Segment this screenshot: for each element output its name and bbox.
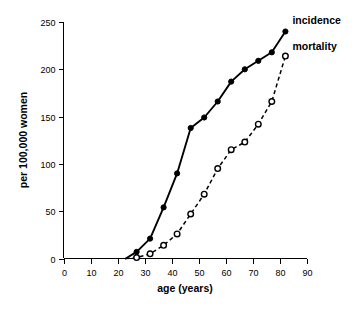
incidence-data-point: [161, 205, 166, 210]
incidence-data-point: [229, 79, 234, 84]
mortality-data-point: [134, 255, 140, 261]
x-axis-ticks: [65, 259, 308, 264]
y-tick-label: 200: [40, 65, 55, 75]
y-axis-tick-labels: 050100150200250: [40, 18, 55, 265]
incidence-line: [126, 32, 286, 259]
incidence-data-point: [242, 67, 247, 72]
x-tick-label: 40: [167, 268, 177, 278]
mortality-data-point: [242, 139, 248, 145]
incidence-data-point: [188, 125, 193, 130]
x-tick-label: 50: [194, 268, 204, 278]
mortality-data-point: [147, 251, 153, 257]
incidence-data-point: [175, 171, 180, 176]
incidence-data-point: [202, 115, 207, 120]
x-tick-label: 20: [113, 268, 123, 278]
y-tick-label: 250: [40, 18, 55, 28]
incidence-series-label: incidence: [292, 14, 341, 26]
x-tick-label: 90: [302, 268, 312, 278]
incidence-data-point: [283, 29, 288, 34]
x-tick-label: 10: [86, 268, 96, 278]
mortality-data-point: [283, 53, 289, 59]
line-chart: 050100150200250 0102030405060708090 inci…: [0, 0, 354, 310]
mortality-data-point: [255, 121, 261, 127]
mortality-data-point: [215, 166, 221, 172]
x-axis-tick-labels: 0102030405060708090: [62, 268, 313, 278]
mortality-data-point: [174, 231, 180, 237]
y-axis: 050100150200250: [40, 18, 63, 265]
mortality-markers: [134, 53, 288, 260]
incidence-data-point: [134, 249, 139, 254]
incidence-data-point: [148, 236, 153, 241]
x-tick-label: 60: [221, 268, 231, 278]
incidence-data-point: [215, 99, 220, 104]
y-axis-ticks: [59, 23, 64, 260]
series-mortality: [126, 53, 289, 260]
x-tick-label: 30: [140, 268, 150, 278]
y-tick-label: 150: [40, 113, 55, 123]
mortality-data-point: [228, 147, 234, 153]
x-axis: 0102030405060708090: [62, 259, 313, 278]
y-tick-label: 0: [50, 255, 55, 265]
mortality-data-point: [201, 191, 207, 197]
x-tick-label: 0: [62, 268, 67, 278]
mortality-data-point: [269, 99, 275, 105]
x-axis-title: age (years): [157, 282, 212, 294]
x-tick-label: 70: [248, 268, 258, 278]
series-incidence: [126, 29, 288, 259]
mortality-data-point: [188, 211, 194, 217]
mortality-series-label: mortality: [292, 40, 337, 52]
incidence-data-point: [269, 50, 274, 55]
chart-container: 050100150200250 0102030405060708090 inci…: [0, 0, 354, 310]
mortality-line: [126, 56, 286, 258]
incidence-data-point: [256, 58, 261, 63]
y-tick-label: 50: [45, 207, 55, 217]
x-tick-label: 80: [275, 268, 285, 278]
y-axis-title: per 100,000 women: [17, 92, 29, 188]
mortality-data-point: [161, 243, 167, 249]
y-tick-label: 100: [40, 160, 55, 170]
